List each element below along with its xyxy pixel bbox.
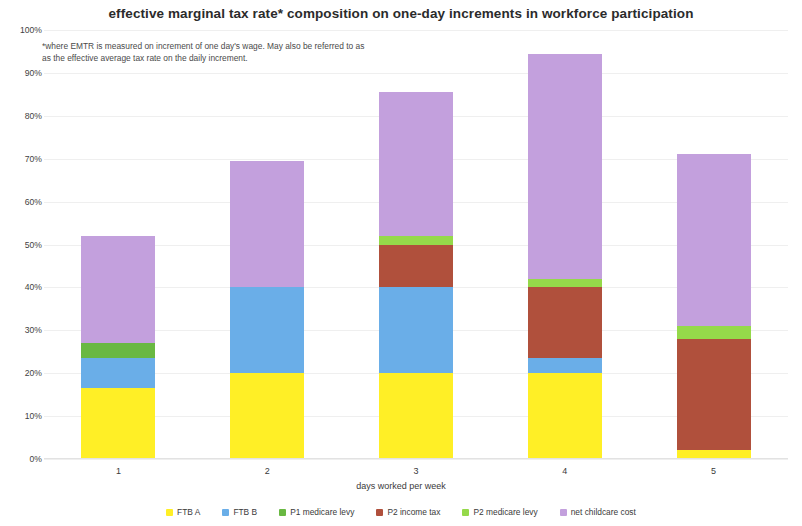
bar-segment[interactable]: [81, 388, 155, 459]
legend-swatch-icon: [279, 509, 286, 516]
axis-baseline: [44, 458, 788, 459]
y-axis-tick-label: 90%: [2, 68, 42, 78]
legend-item[interactable]: FTB B: [222, 507, 257, 517]
x-axis-tick-label: 4: [562, 466, 567, 476]
x-axis-tick-label: 2: [265, 466, 270, 476]
bar-segment[interactable]: [677, 154, 751, 326]
bar-segment[interactable]: [81, 358, 155, 388]
bar-group[interactable]: [230, 30, 304, 459]
x-axis-tick-label: 1: [116, 466, 121, 476]
stacked-bar[interactable]: [677, 154, 751, 459]
legend-item[interactable]: P2 income tax: [376, 507, 440, 517]
y-axis-tick-label: 0%: [2, 454, 42, 464]
legend-label: P2 income tax: [387, 507, 440, 517]
x-axis-tick-label: 5: [711, 466, 716, 476]
bar-segment[interactable]: [677, 339, 751, 451]
bar-group[interactable]: [81, 30, 155, 459]
bar-group[interactable]: [677, 30, 751, 459]
bar-segment[interactable]: [230, 373, 304, 459]
legend-swatch-icon: [166, 509, 173, 516]
y-axis-tick-label: 40%: [2, 282, 42, 292]
y-axis-tick-label: 10%: [2, 411, 42, 421]
stacked-bar[interactable]: [379, 92, 453, 459]
legend-swatch-icon: [376, 509, 383, 516]
bar-segment[interactable]: [81, 236, 155, 343]
legend-item[interactable]: net childcare cost: [560, 507, 636, 517]
y-axis-tick-label: 60%: [2, 197, 42, 207]
bar-segment[interactable]: [677, 326, 751, 339]
legend-label: P2 medicare levy: [473, 507, 537, 517]
bar-segment[interactable]: [379, 287, 453, 373]
legend-item[interactable]: FTB A: [166, 507, 200, 517]
y-axis-tick-label: 100%: [2, 25, 42, 35]
legend-label: FTB B: [233, 507, 257, 517]
bar-segment[interactable]: [379, 92, 453, 236]
bar-segment[interactable]: [528, 54, 602, 279]
legend-swatch-icon: [462, 509, 469, 516]
bar-segment[interactable]: [81, 343, 155, 358]
plot-area: [44, 30, 788, 459]
bar-segment[interactable]: [528, 287, 602, 358]
y-axis-tick-label: 50%: [2, 240, 42, 250]
legend-label: FTB A: [177, 507, 200, 517]
bar-segment[interactable]: [379, 373, 453, 459]
x-axis-title: days worked per week: [0, 481, 802, 491]
y-axis-tick-label: 80%: [2, 111, 42, 121]
bar-segment[interactable]: [528, 373, 602, 459]
legend-swatch-icon: [560, 509, 567, 516]
legend-label: P1 medicare levy: [290, 507, 354, 517]
bar-segment[interactable]: [230, 287, 304, 373]
y-axis: 0%10%20%30%40%50%60%70%80%90%100%: [0, 30, 42, 459]
bar-segment[interactable]: [528, 279, 602, 288]
bar-segment[interactable]: [379, 245, 453, 288]
bar-segment[interactable]: [528, 358, 602, 373]
legend-label: net childcare cost: [571, 507, 636, 517]
legend-item[interactable]: P1 medicare levy: [279, 507, 354, 517]
stacked-bar[interactable]: [230, 161, 304, 459]
bar-group[interactable]: [379, 30, 453, 459]
y-axis-tick-label: 30%: [2, 325, 42, 335]
bar-segment[interactable]: [230, 161, 304, 288]
stacked-bar[interactable]: [81, 236, 155, 459]
bar-segment[interactable]: [379, 236, 453, 245]
y-axis-tick-label: 70%: [2, 154, 42, 164]
bar-group[interactable]: [528, 30, 602, 459]
x-axis-tick-label: 3: [413, 466, 418, 476]
chart-title: effective marginal tax rate* composition…: [0, 6, 802, 21]
stacked-bar[interactable]: [528, 54, 602, 459]
y-axis-tick-label: 20%: [2, 368, 42, 378]
legend-item[interactable]: P2 medicare levy: [462, 507, 537, 517]
legend-swatch-icon: [222, 509, 229, 516]
gridline: [44, 459, 788, 460]
chart-legend: FTB AFTB BP1 medicare levyP2 income taxP…: [0, 507, 802, 517]
